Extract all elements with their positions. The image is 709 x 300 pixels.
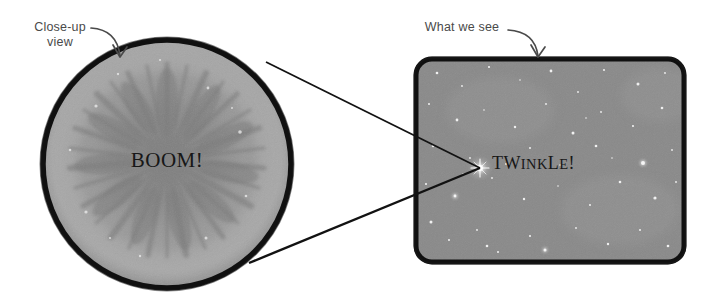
- twinkle-caption: TWINKLE!: [492, 153, 575, 174]
- boom-caption: BOOM!: [42, 148, 292, 173]
- twinkle-letters-ink: INK: [521, 156, 548, 172]
- figure-canvas: Close-up view What we see BOOM! TWINKLE!: [0, 0, 709, 300]
- twinkle-letter-l: L: [548, 153, 559, 173]
- twinkle-letter-t: T: [492, 153, 503, 173]
- twinkle-letter-w: W: [503, 153, 520, 173]
- twinkle-exclamation: !: [568, 153, 574, 173]
- bright-star: [467, 155, 493, 181]
